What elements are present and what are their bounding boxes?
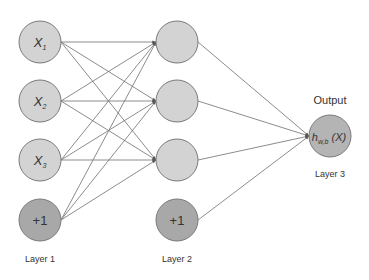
layer-label-1: Layer 1	[25, 254, 55, 264]
edge-a3-out	[198, 136, 309, 160]
edge-b1-a1	[61, 42, 156, 220]
node-a3	[156, 139, 198, 181]
node-a2	[156, 80, 198, 122]
node-label-b2: +1	[170, 213, 185, 228]
node-b2: +1	[156, 199, 198, 241]
node-x1: X1	[19, 21, 61, 63]
output-heading: Output	[313, 94, 346, 106]
node-x2: X2	[19, 80, 61, 122]
edge-b2-out	[198, 136, 309, 220]
edge-b1-a3	[61, 160, 156, 220]
node-label-b1: +1	[33, 213, 48, 228]
layer-label-2: Layer 2	[162, 254, 192, 264]
node-circle-a3	[156, 139, 198, 181]
neural-network-diagram: X1X2X3+1+1hw,b (X) Layer 1Layer 2Layer 3…	[0, 0, 369, 280]
edge-a2-out	[198, 101, 309, 136]
node-circle-a2	[156, 80, 198, 122]
node-b1: +1	[19, 199, 61, 241]
edge-b1-a2	[61, 101, 156, 220]
edge-a1-out	[198, 42, 309, 136]
node-label-out: hw,b (X)	[312, 131, 347, 145]
nodes-group: X1X2X3+1+1hw,b (X)	[19, 21, 351, 241]
node-circle-a1	[156, 21, 198, 63]
node-x3: X3	[19, 139, 61, 181]
edges-group	[61, 40, 309, 220]
node-out: hw,b (X)	[309, 115, 351, 157]
layer-label-3: Layer 3	[315, 169, 345, 179]
node-a1	[156, 21, 198, 63]
